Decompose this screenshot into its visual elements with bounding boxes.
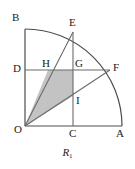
point-label-F: F <box>113 62 119 73</box>
point-label-H: H <box>42 58 50 69</box>
geometry-figure: B E D H G F I O C A R1 <box>0 0 135 169</box>
point-label-A: A <box>116 128 124 139</box>
figure-caption-subscript: 1 <box>69 152 73 160</box>
point-label-I: I <box>76 95 80 106</box>
point-label-E: E <box>69 17 76 28</box>
point-label-D: D <box>13 63 21 74</box>
figure-caption: R1 <box>0 146 135 160</box>
point-label-B: B <box>12 12 19 23</box>
point-label-O: O <box>14 124 22 135</box>
point-label-G: G <box>75 58 83 69</box>
point-label-C: C <box>69 128 76 139</box>
figure-canvas <box>0 0 135 169</box>
